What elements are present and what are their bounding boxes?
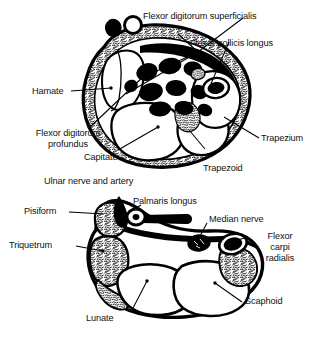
label-flexor-digitorum-profundus-line1: Flexor digitorum <box>22 128 114 138</box>
label-flexor-carpi-radialis-line1: Flexor <box>250 231 310 241</box>
bone-capitate <box>111 103 184 160</box>
label-hamate: Hamate <box>32 86 64 96</box>
label-flexor-pollicis-longus: Flexor pollicis longus <box>190 38 273 48</box>
label-palmaris-longus: Palmaris longus <box>133 196 197 206</box>
label-capitate: Capitate <box>84 152 117 162</box>
label-pisiform: Pisiform <box>24 206 56 216</box>
anatomical-figure: Flexor digitorum superficialis Flexor po… <box>0 0 327 343</box>
label-median-nerve: Median nerve <box>209 214 263 224</box>
label-flexor-carpi-radialis-line3: radialis <box>250 253 310 263</box>
label-flexor-carpi-radialis-line2: carpi <box>250 242 310 252</box>
label-ulnar-nerve-and-artery: Ulnar nerve and artery <box>44 176 133 186</box>
carpal-tunnel-cross-section-drawing <box>0 0 327 343</box>
label-flexor-digitorum-profundus-line2: profundus <box>22 139 114 149</box>
label-lunate: Lunate <box>86 313 114 323</box>
label-scaphoid: Scaphoid <box>245 296 283 306</box>
label-trapezium: Trapezium <box>261 133 303 143</box>
label-flexor-digitorum-superficialis: Flexor digitorum superficialis <box>143 11 256 21</box>
label-triquetrum: Triquetrum <box>9 240 52 250</box>
label-trapezoid: Trapezoid <box>203 163 243 173</box>
